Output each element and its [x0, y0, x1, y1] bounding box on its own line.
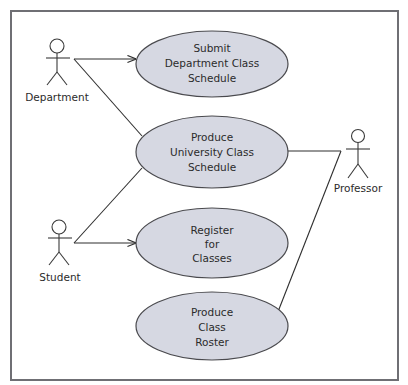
use-case-submit-department-class-schedule[interactable]: Submit Department Class Schedule: [136, 31, 288, 97]
use-case-label-line: University Class: [170, 146, 254, 158]
use-case-label-line: for: [205, 238, 220, 250]
use-case-label-line: Submit: [193, 42, 230, 54]
use-case-produce-university-class-schedule[interactable]: Produce University Class Schedule: [136, 116, 288, 188]
use-case-label-line: Department Class: [165, 57, 260, 69]
use-case-label-line: Schedule: [188, 72, 236, 84]
actor-label: Department: [25, 91, 89, 103]
use-case-produce-class-roster[interactable]: Produce Class Roster: [136, 292, 288, 360]
use-case-label-line: Schedule: [188, 161, 236, 173]
use-case-label-line: Class: [198, 321, 226, 333]
use-case-label-line: Classes: [192, 252, 232, 264]
use-case-register-for-classes[interactable]: Register for Classes: [136, 208, 288, 278]
use-case-label-line: Produce: [191, 131, 233, 143]
actor-label: Student: [39, 271, 80, 283]
use-case-diagram: Submit Department Class Schedule Produce…: [0, 0, 408, 385]
use-case-label-line: Roster: [195, 336, 229, 348]
use-case-label-line: Produce: [191, 306, 233, 318]
use-case-label-line: Register: [190, 224, 234, 236]
actor-label: Professor: [334, 182, 383, 194]
